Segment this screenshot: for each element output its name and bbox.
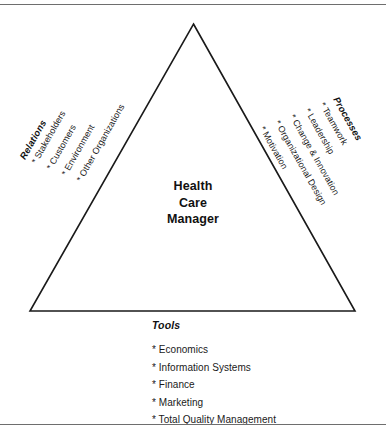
- tools-heading: Tools: [152, 319, 367, 331]
- diagram-canvas: Health Care Manager Relations * Stakehol…: [0, 0, 386, 437]
- tools-item-finance: * Finance: [152, 376, 367, 394]
- center-label-line-3: Manager: [133, 211, 253, 228]
- tools-block: Tools * Economics * Information Systems …: [152, 319, 367, 429]
- tools-item-economics: * Economics: [152, 341, 367, 359]
- center-label-line-1: Health: [133, 178, 253, 195]
- bottom-divider-rule: [0, 424, 386, 425]
- tools-item-information-systems: * Information Systems: [152, 359, 367, 377]
- tools-item-total-quality-management: * Total Quality Management: [152, 411, 367, 429]
- tools-item-marketing: * Marketing: [152, 394, 367, 412]
- center-label-line-2: Care: [133, 195, 253, 212]
- center-label: Health Care Manager: [133, 178, 253, 228]
